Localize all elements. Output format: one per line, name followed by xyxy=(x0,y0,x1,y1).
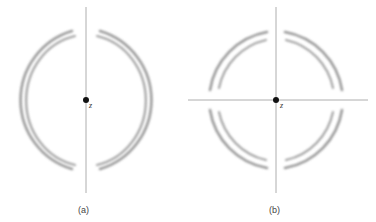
caption-b: (b) xyxy=(269,205,280,215)
arc-ll-inner xyxy=(219,112,266,160)
caption-a: (a) xyxy=(78,205,89,215)
arc-lr-inner xyxy=(286,112,333,160)
origin-dot xyxy=(273,97,279,103)
arc-lr-outer xyxy=(285,110,342,168)
panel-a xyxy=(21,7,152,193)
z-label-a: z xyxy=(89,101,92,110)
arc-ur-outer xyxy=(285,32,342,90)
arc-ul-inner xyxy=(219,40,266,88)
arc-left-inner xyxy=(26,36,75,165)
arc-ll-outer xyxy=(210,110,267,168)
diagram-canvas xyxy=(0,0,376,222)
arc-right-inner xyxy=(97,36,146,165)
z-label-b: z xyxy=(280,101,283,110)
arc-ul-outer xyxy=(210,32,267,90)
arc-ur-inner xyxy=(286,40,333,88)
panel-b xyxy=(188,7,368,193)
